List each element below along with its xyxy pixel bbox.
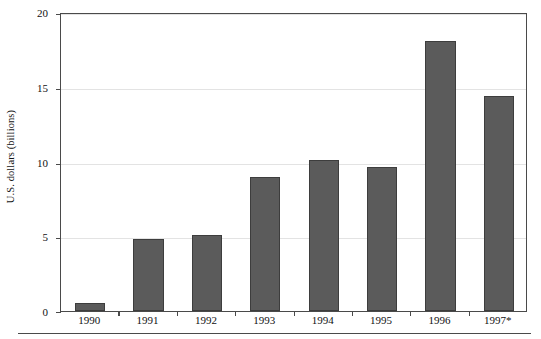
y-axis-title-text: U.S. dollars (billions) <box>6 109 17 202</box>
y-tick-label: 5 <box>43 231 49 243</box>
x-tick-label: 1991 <box>137 314 159 326</box>
bar <box>133 239 163 311</box>
x-tick-label: 1990 <box>78 314 100 326</box>
y-axis-tick-labels: 05101520 <box>22 0 54 339</box>
bars-layer <box>61 14 526 311</box>
x-tick-label: 1997* <box>484 314 512 326</box>
y-tick-label: 20 <box>37 7 48 19</box>
bar <box>367 167 397 311</box>
x-tick-label: 1996 <box>428 314 450 326</box>
bottom-rule <box>18 333 531 334</box>
x-axis-tick-labels: 19901991199219931994199519961997* <box>60 314 527 330</box>
bar <box>250 177 280 311</box>
y-tick-label: 0 <box>43 306 49 318</box>
bar-chart-figure: U.S. dollars (billions) 05101520 1990199… <box>0 0 541 339</box>
x-tick-label: 1993 <box>253 314 275 326</box>
x-tick-label: 1995 <box>370 314 392 326</box>
bar <box>192 235 222 311</box>
y-tick-label: 10 <box>37 157 48 169</box>
y-tick-label: 15 <box>37 82 48 94</box>
bar <box>75 303 105 311</box>
x-tick-label: 1994 <box>312 314 334 326</box>
x-tick-label: 1992 <box>195 314 217 326</box>
bar <box>425 41 455 311</box>
y-axis-title: U.S. dollars (billions) <box>0 0 22 312</box>
bar <box>309 160 339 311</box>
bar <box>484 96 514 311</box>
plot-area <box>60 13 527 312</box>
